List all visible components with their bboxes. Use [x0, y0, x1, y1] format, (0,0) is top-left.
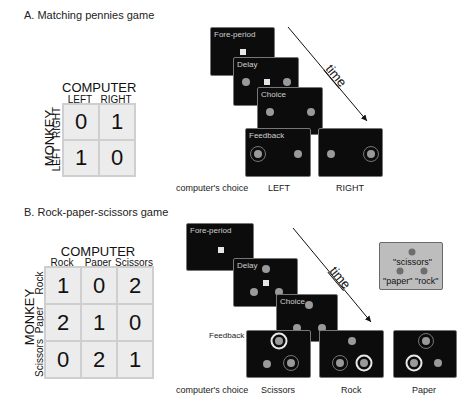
feedback-label-b: Feedback — [209, 331, 244, 340]
legend-dot-icon — [409, 249, 416, 256]
matrix-b: 1 0 2 2 1 0 0 2 1 — [44, 266, 154, 379]
screen-label: Delay — [237, 261, 257, 270]
fixation-square-icon — [263, 280, 269, 286]
target-dot-icon — [410, 359, 418, 367]
choice-label-left: LEFT — [268, 183, 290, 193]
legend-dot-icon — [397, 268, 404, 275]
computers-choice-label-a: computer's choice — [176, 183, 248, 193]
screen-b-feedback-rock — [319, 330, 384, 378]
matrix-b-cell: 2 — [117, 267, 153, 304]
target-dot-icon — [263, 360, 271, 368]
target-dot-icon — [262, 265, 270, 273]
target-dot-icon — [434, 359, 442, 367]
matrix-b-cell: 2 — [45, 304, 81, 341]
screen-label: Fore-period — [190, 226, 231, 235]
legend-label-rock: "rock" — [415, 276, 438, 286]
target-dot-icon — [336, 359, 344, 367]
choice-label-scissors: Scissors — [261, 385, 295, 395]
legend-label-paper: "paper" — [383, 276, 412, 286]
choice-label-right: RIGHT — [336, 183, 364, 193]
target-dot-icon — [287, 359, 295, 367]
choice-label-paper: Paper — [412, 385, 436, 395]
matrix-b-cell: 0 — [81, 267, 117, 304]
target-dot-icon — [422, 337, 430, 345]
target-dot-icon — [305, 301, 313, 309]
target-dot-icon — [275, 337, 283, 345]
target-legend: "scissors" "paper" "rock" — [379, 242, 443, 290]
screen-label: Choice — [280, 297, 305, 306]
matrix-b-cell: 2 — [81, 341, 117, 378]
computers-choice-label-b: computer's choice — [176, 385, 248, 395]
target-dot-icon — [348, 337, 356, 345]
choice-label-rock: Rock — [341, 385, 362, 395]
target-dot-icon — [360, 359, 368, 367]
matrix-b-cell: 1 — [45, 267, 81, 304]
fixation-square-icon — [218, 247, 224, 253]
matrix-b-cell: 0 — [45, 341, 81, 378]
target-dot-icon — [250, 288, 258, 296]
screen-b-feedback-scissors — [246, 330, 311, 378]
panel-b-title: B. Rock-paper-scissors game — [24, 206, 168, 218]
matrix-b-cell: 1 — [117, 341, 153, 378]
legend-dot-icon — [421, 268, 428, 275]
matrix-b-cell: 1 — [81, 304, 117, 341]
legend-label-scissors: "scissors" — [393, 257, 432, 267]
matrix-b-cell: 0 — [117, 304, 153, 341]
screen-b-feedback-paper — [393, 330, 457, 378]
